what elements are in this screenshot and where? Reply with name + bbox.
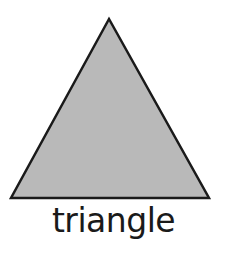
shape-label: triangle xyxy=(0,201,227,241)
triangle-shape xyxy=(11,19,209,198)
